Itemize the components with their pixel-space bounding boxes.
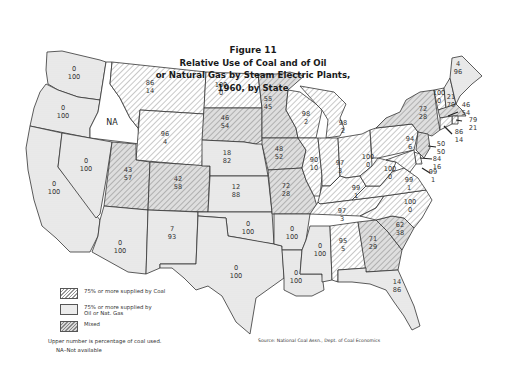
- label-ut: 4357: [124, 166, 132, 182]
- pointer-de: [420, 158, 432, 159]
- map-note: Upper number is percentage of coal used.…: [48, 337, 162, 355]
- label-id: NA: [106, 118, 118, 127]
- state-fl: [338, 268, 420, 330]
- state-wy: [136, 110, 204, 166]
- title-line-3: 1960, by State: [0, 82, 506, 95]
- pointer-ct: [444, 126, 452, 134]
- legend-item-mixed: Mixed: [60, 321, 165, 332]
- label-mn: 5545: [264, 95, 272, 111]
- label-ma: 4654: [462, 101, 470, 117]
- label-fl: 1486: [393, 278, 401, 294]
- label-mo: 7228: [282, 182, 290, 198]
- label-ne: 1882: [223, 149, 231, 165]
- label-md: 991: [429, 168, 437, 184]
- state-sd: [202, 108, 262, 144]
- figure-title: Figure 11 Relative Use of Coal and of Oi…: [0, 44, 506, 94]
- note-not-available: NA–Not available: [48, 346, 162, 355]
- label-il: 9010: [310, 156, 318, 172]
- note-upper-number: Upper number is percentage of coal used.: [48, 337, 162, 346]
- legend-mixed-label: Mixed: [84, 321, 100, 327]
- label-ga: 7129: [369, 235, 377, 251]
- coal-hatch-swatch-icon: [60, 288, 78, 299]
- label-nh: 2179: [447, 93, 455, 109]
- oil-stipple-swatch-icon: [60, 304, 78, 315]
- map-legend: 75% or more supplied by Coal 75% or more…: [60, 288, 165, 337]
- state-ia: [262, 138, 306, 170]
- legend-coal-label: 75% or more supplied by Coal: [84, 288, 165, 294]
- mixed-hatch-swatch-icon: [60, 321, 78, 332]
- label-co: 4258: [174, 175, 182, 191]
- title-line-2: or Natural Gas by Steam Electric Plants,: [0, 69, 506, 82]
- label-ct: 8614: [455, 128, 463, 144]
- label-mi: 982: [339, 119, 347, 135]
- label-ri: 7921: [469, 116, 477, 132]
- label-sd: 4654: [221, 114, 229, 130]
- legend-oil-label: 75% or more supplied by Oil or Nat. Gas: [84, 304, 152, 316]
- source-credit: Source: National Coal Assn., Dept. of Co…: [258, 338, 380, 343]
- legend-item-coal: 75% or more supplied by Coal: [60, 288, 165, 299]
- label-ny: 7228: [419, 105, 427, 121]
- label-sc: 6238: [396, 221, 404, 237]
- title-line-1: Relative Use of Coal and of Oil: [0, 57, 506, 70]
- state-ne: [202, 140, 268, 176]
- figure-number: Figure 11: [0, 44, 506, 57]
- legend-item-oil: 75% or more supplied by Oil or Nat. Gas: [60, 304, 165, 316]
- label-nj: 5050: [437, 140, 445, 156]
- label-ks: 1288: [232, 183, 240, 199]
- label-ia: 4852: [275, 145, 283, 161]
- legend-oil-line-2: Oil or Nat. Gas: [84, 310, 123, 316]
